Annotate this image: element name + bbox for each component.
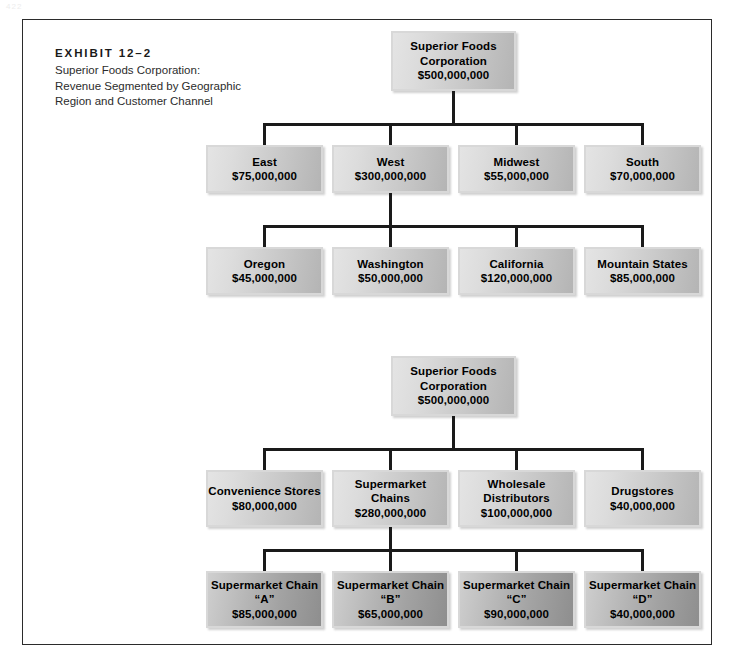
node-label: West (377, 155, 405, 170)
node-supermarket-chain-c: Supermarket Chain “C” $90,000,000 (458, 571, 575, 628)
node-label: Wholesale Distributors (460, 477, 573, 506)
connector-drop-channel-2 (389, 448, 392, 470)
connector-bus-regions (263, 123, 644, 126)
node-label: Convenience Stores (208, 484, 320, 499)
node-supermarket-chain-b: Supermarket Chain “B” $65,000,000 (332, 571, 449, 628)
connector-west-drop (389, 193, 392, 225)
connector-drop-channel-4 (641, 448, 644, 470)
caption-block: EXHIBIT 12–2 Superior Foods Corporation:… (55, 47, 245, 110)
node-region-south: South $70,000,000 (584, 145, 701, 193)
node-label: Mountain States (597, 257, 687, 272)
node-value: $40,000,000 (610, 607, 675, 622)
node-label: California (489, 257, 543, 272)
connector-bus-states (263, 225, 644, 228)
connector-drop-state-4 (641, 225, 644, 247)
node-value: $70,000,000 (610, 169, 675, 184)
node-label: Superior Foods Corporation (393, 39, 514, 68)
node-value: $90,000,000 (484, 607, 549, 622)
connector-root-drop-geographic (452, 91, 455, 123)
node-label: Supermarket Chain “A” (208, 578, 321, 607)
node-value: $85,000,000 (610, 271, 675, 286)
connector-drop-state-2 (389, 225, 392, 247)
connector-drop-chain-3 (515, 549, 518, 571)
exhibit-label: EXHIBIT 12–2 (55, 47, 245, 59)
node-region-midwest: Midwest $55,000,000 (458, 145, 575, 193)
node-value: $500,000,000 (418, 393, 490, 408)
node-state-oregon: Oregon $45,000,000 (206, 247, 323, 295)
connector-bus-supermarket-chains (263, 549, 644, 552)
connector-drop-region-4 (641, 123, 644, 145)
node-label: Midwest (493, 155, 539, 170)
connector-drop-chain-1 (263, 549, 266, 571)
node-region-east: East $75,000,000 (206, 145, 323, 193)
node-state-mountain-states: Mountain States $85,000,000 (584, 247, 701, 295)
node-label: Supermarket Chain “B” (334, 578, 447, 607)
node-channel-drugstores: Drugstores $40,000,000 (584, 470, 701, 527)
node-label: Supermarket Chain “C” (460, 578, 573, 607)
node-label: Superior Foods Corporation (393, 364, 514, 393)
node-value: $80,000,000 (232, 499, 297, 514)
connector-drop-region-2 (389, 123, 392, 145)
node-label: Washington (357, 257, 423, 272)
connector-drop-channel-1 (263, 448, 266, 470)
connector-drop-channel-3 (515, 448, 518, 470)
connector-drop-state-3 (515, 225, 518, 247)
node-label: East (252, 155, 277, 170)
node-value: $300,000,000 (355, 169, 427, 184)
node-label: Supermarket Chain “D” (586, 578, 699, 607)
node-value: $100,000,000 (481, 506, 553, 521)
node-state-washington: Washington $50,000,000 (332, 247, 449, 295)
exhibit-caption: Superior Foods Corporation: Revenue Segm… (55, 63, 245, 110)
node-value: $500,000,000 (418, 68, 490, 83)
node-root-customer-channel: Superior Foods Corporation $500,000,000 (391, 356, 516, 416)
exhibit-frame: EXHIBIT 12–2 Superior Foods Corporation:… (22, 19, 712, 645)
node-value: $85,000,000 (232, 607, 297, 622)
connector-supermarket-chains-drop (389, 527, 392, 549)
connector-drop-chain-4 (641, 549, 644, 571)
node-channel-wholesale-distributors: Wholesale Distributors $100,000,000 (458, 470, 575, 527)
node-value: $40,000,000 (610, 499, 675, 514)
node-value: $50,000,000 (358, 271, 423, 286)
node-supermarket-chain-a: Supermarket Chain “A” $85,000,000 (206, 571, 323, 628)
node-label: Supermarket Chains (334, 477, 447, 506)
node-region-west: West $300,000,000 (332, 145, 449, 193)
node-value: $55,000,000 (484, 169, 549, 184)
connector-root-drop-channel (452, 416, 455, 448)
node-value: $75,000,000 (232, 169, 297, 184)
node-value: $120,000,000 (481, 271, 553, 286)
node-root-geographic: Superior Foods Corporation $500,000,000 (391, 31, 516, 91)
node-value: $280,000,000 (355, 506, 427, 521)
node-channel-supermarket-chains: Supermarket Chains $280,000,000 (332, 470, 449, 527)
node-channel-convenience-stores: Convenience Stores $80,000,000 (206, 470, 323, 527)
node-value: $45,000,000 (232, 271, 297, 286)
node-label: Drugstores (611, 484, 673, 499)
connector-drop-region-1 (263, 123, 266, 145)
node-label: South (626, 155, 659, 170)
connector-drop-chain-2 (389, 549, 392, 571)
connector-bus-channels (263, 448, 644, 451)
connector-drop-region-3 (515, 123, 518, 145)
connector-drop-state-1 (263, 225, 266, 247)
node-state-california: California $120,000,000 (458, 247, 575, 295)
node-label: Oregon (244, 257, 286, 272)
node-value: $65,000,000 (358, 607, 423, 622)
node-supermarket-chain-d: Supermarket Chain “D” $40,000,000 (584, 571, 701, 628)
page-number-ghost: 422 (6, 2, 22, 11)
